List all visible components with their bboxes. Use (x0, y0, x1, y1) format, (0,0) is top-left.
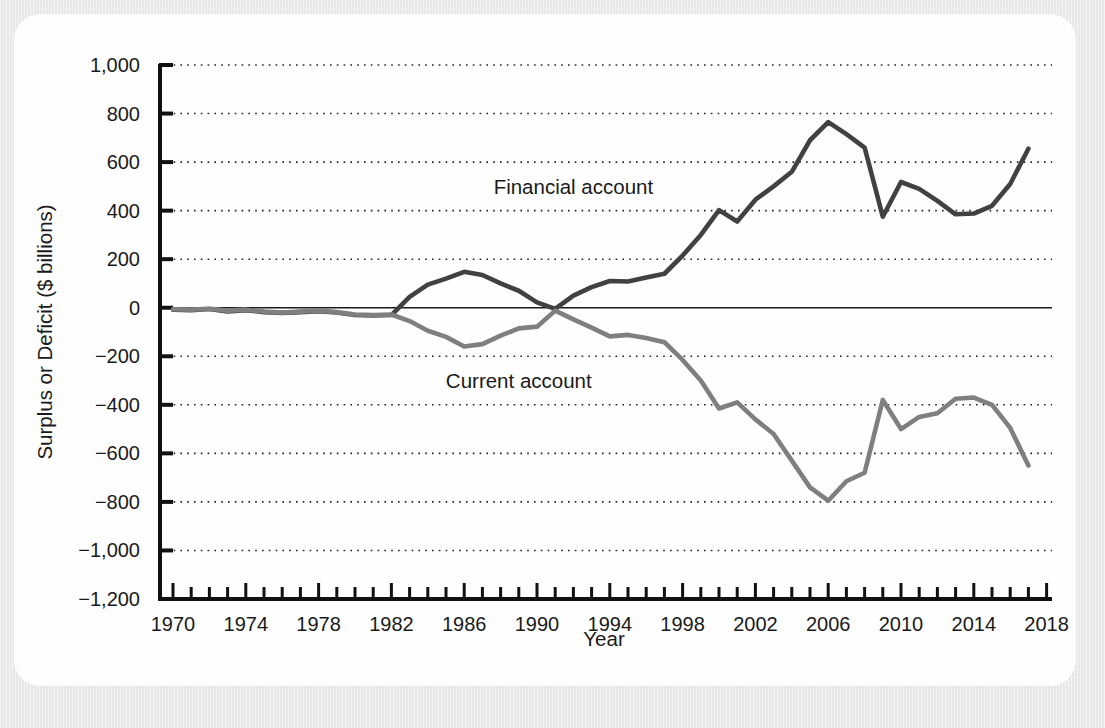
y-tick-label: −200 (95, 345, 140, 367)
x-tick-label: 1986 (442, 613, 487, 635)
y-tick-label: 800 (107, 103, 140, 125)
chart-svg: 1,0008006004002000−200−400−600−800−1,000… (14, 14, 1076, 686)
y-tick-label: −600 (95, 442, 140, 464)
x-axis-title: Year (583, 627, 625, 650)
x-tick-label: 1978 (296, 613, 341, 635)
x-tick-label: 1970 (151, 613, 196, 635)
x-axis (158, 583, 1052, 599)
x-tick-label: 2006 (806, 613, 851, 635)
x-tick-label: 2018 (1024, 613, 1069, 635)
x-tick-label: 2002 (733, 613, 778, 635)
series-line (173, 309, 1028, 501)
line-chart: 1,0008006004002000−200−400−600−800−1,000… (14, 14, 1076, 686)
series-line (173, 122, 1028, 315)
y-tick-labels: 1,0008006004002000−200−400−600−800−1,000… (78, 54, 140, 610)
y-tick-label: 0 (129, 297, 140, 319)
y-tick-label: 400 (107, 200, 140, 222)
y-tick-label: 600 (107, 151, 140, 173)
x-tick-label: 1990 (515, 613, 560, 635)
x-tick-label: 1998 (660, 613, 705, 635)
x-tick-label: 2010 (879, 613, 924, 635)
y-axis (159, 64, 173, 599)
y-tick-label: −1,000 (78, 539, 140, 561)
x-tick-label: 2014 (952, 613, 997, 635)
y-axis-title: Surplus or Deficit ($ billions) (33, 204, 56, 459)
x-tick-label: 1982 (369, 613, 414, 635)
y-tick-label: 1,000 (90, 54, 140, 76)
y-tick-label: −400 (95, 394, 140, 416)
y-tick-label: −800 (95, 491, 140, 513)
figure-card: 1,0008006004002000−200−400−600−800−1,000… (14, 14, 1076, 686)
series-label: Current account (446, 369, 592, 392)
x-tick-label: 1974 (224, 613, 269, 635)
series-label: Financial account (494, 175, 654, 198)
y-tick-label: 200 (107, 248, 140, 270)
y-tick-label: −1,200 (78, 588, 140, 610)
